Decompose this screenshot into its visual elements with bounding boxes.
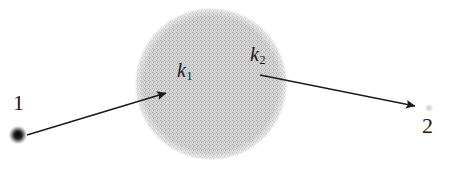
figure-canvas — [0, 0, 453, 176]
detector-point-dot — [424, 103, 434, 113]
detector-point-label: 2 — [422, 115, 433, 137]
k2-subscript: 2 — [259, 53, 265, 67]
source-point-label: 1 — [13, 92, 24, 114]
k1-symbol: k — [177, 59, 186, 81]
scattered-wavevector-label: k2 — [250, 44, 265, 66]
scatterer-sphere — [135, 8, 288, 161]
k2-symbol: k — [250, 43, 259, 65]
incident-wavevector-label: k1 — [177, 60, 192, 82]
scattering-diagram-figure: 1 2 k1 k2 — [0, 0, 453, 176]
source-point-dot — [8, 125, 28, 145]
k1-subscript: 1 — [186, 69, 192, 83]
